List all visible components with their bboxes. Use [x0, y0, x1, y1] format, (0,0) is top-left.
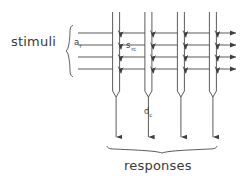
cortical-columns: [113, 12, 217, 137]
responses-brace: [107, 147, 217, 154]
responses-label: responses: [124, 158, 192, 173]
figure-container: stimuli a r: [0, 0, 244, 176]
neural-column-diagram: stimuli a r: [0, 0, 244, 176]
stimuli-label: stimuli: [11, 34, 56, 49]
afferent-subscript: r: [79, 43, 82, 49]
synaptic-subscript: rc: [131, 46, 136, 52]
synaptic-weight-label: s rc: [126, 40, 136, 52]
stimuli-brace: [66, 26, 73, 77]
response-subscript: c: [149, 112, 152, 118]
afferent-weight-label: a r: [74, 37, 82, 49]
